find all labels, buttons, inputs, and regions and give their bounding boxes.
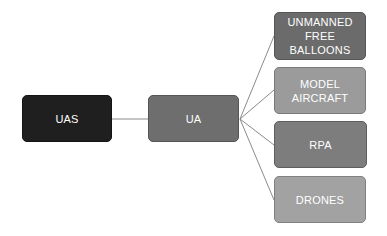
node-model-aircraft: MODEL AIRCRAFT	[274, 67, 366, 114]
node-rpa-label: RPA	[309, 138, 331, 152]
node-unmanned-free-balloons: UNMANNED FREE BALLOONS	[274, 12, 366, 60]
node-uas-label: UAS	[55, 112, 78, 126]
node-model-aircraft-line1: MODEL	[292, 77, 349, 91]
uas-classification-diagram: UAS UA UNMANNED FREE BALLOONS MODEL AIRC…	[0, 0, 387, 236]
node-model-aircraft-line2: AIRCRAFT	[292, 91, 349, 105]
connector-ua-drones	[240, 119, 274, 200]
node-rpa: RPA	[274, 121, 367, 168]
connector-ua-unmanned-free-balloons	[240, 36, 274, 119]
node-drones-label: DRONES	[296, 193, 344, 207]
connector-ua-model-aircraft	[240, 90, 274, 119]
node-drones: DRONES	[274, 176, 366, 223]
node-uas: UAS	[22, 95, 112, 142]
node-ua-label: UA	[186, 112, 202, 126]
node-unmanned-free-balloons-line2: FREE BALLOONS	[275, 29, 365, 57]
node-unmanned-free-balloons-line1: UNMANNED	[275, 15, 365, 29]
node-ua: UA	[148, 95, 239, 142]
